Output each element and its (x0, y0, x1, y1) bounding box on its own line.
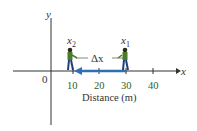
arrowhead-left-icon (74, 67, 82, 75)
person-x1-icon (118, 48, 128, 70)
tick-label-10: 10 (67, 80, 78, 91)
origin-label: 0 (42, 73, 48, 85)
y-axis-label: y (45, 8, 51, 20)
tick-label-20: 20 (94, 80, 105, 91)
tick-label-40: 40 (148, 80, 159, 91)
displacement-diagram: y x 0 x2 x1 Δx 10 20 30 40 Distance (m) (0, 0, 197, 131)
tick-label-30: 30 (121, 80, 132, 91)
x2-label: x2 (66, 34, 76, 49)
x-axis-title: Distance (m) (82, 92, 137, 104)
person-x2-icon (68, 48, 78, 70)
delta-x-label: Δx (91, 52, 104, 64)
x-axis-label: x (180, 65, 186, 77)
x1-label: x1 (120, 34, 130, 49)
